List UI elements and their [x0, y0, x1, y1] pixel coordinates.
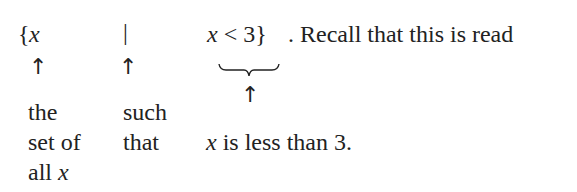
- annotation-set-of: set of: [28, 130, 81, 154]
- annotation-col-3: x is less than 3.: [206, 130, 352, 154]
- annotation-the: the: [28, 100, 57, 124]
- condition: x < 3}: [207, 22, 267, 46]
- set-variable: x: [29, 22, 40, 46]
- trailing-sentence: . Recall that this is read: [288, 22, 513, 46]
- annotation-that: that: [123, 130, 159, 154]
- arrow-up-icon: ↑: [241, 84, 259, 106]
- arrow-up-icon: ↑: [29, 56, 47, 78]
- annotation-less-than: is less than 3.: [217, 129, 352, 155]
- annotation-all: all: [28, 159, 58, 185]
- annotation-x: x: [58, 159, 69, 185]
- such-that-bar: |: [123, 20, 128, 44]
- underbrace-icon: [218, 62, 280, 78]
- open-brace: {: [18, 22, 30, 46]
- condition-variable: x: [207, 21, 218, 47]
- condition-rest: < 3}: [218, 21, 267, 47]
- annotation-such: such: [123, 100, 167, 124]
- annotation-x: x: [206, 129, 217, 155]
- arrow-up-icon: ↑: [119, 56, 137, 78]
- annotation-all-x: all x: [28, 160, 69, 184]
